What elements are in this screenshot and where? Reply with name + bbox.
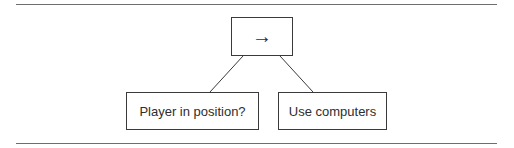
node-label: Use computers [289,104,376,119]
sequence-node: → [231,17,293,56]
sequence-arrow-icon: → [252,25,272,48]
action-node-use-computers: Use computers [278,92,387,130]
node-label: Player in position? [139,104,245,119]
bottom-rule [16,143,497,144]
condition-node-player-in-position: Player in position? [126,92,259,130]
connector-root-to-left [210,56,243,92]
connector-root-to-right [280,56,313,92]
